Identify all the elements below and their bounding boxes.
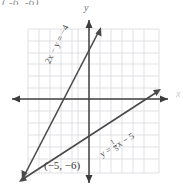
line-shallow-arrow-right [153,89,161,96]
x-axis-arrow-left [12,96,20,103]
intersection-point-label: (−5, −6) [44,159,80,171]
top-cropped-label: ( -6, -6) [2,0,39,5]
coordinate-graph [0,0,183,195]
y-axis-label: y [84,2,88,13]
x-axis-arrow-right [160,96,168,103]
x-axis-label: x [176,88,180,99]
line-shallow [19,89,161,182]
y-axis-arrow-down [86,175,93,183]
y-axis-arrow-up [86,20,93,28]
x-axis [12,96,168,103]
line-shallow-arrow-left [19,175,27,183]
